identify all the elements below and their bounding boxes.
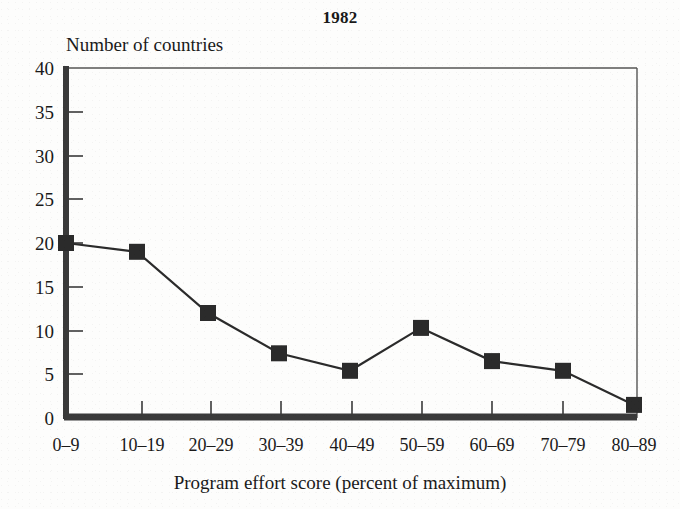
y-tick-label-20: 20 <box>10 234 54 253</box>
y-tick-label-10: 10 <box>10 322 54 341</box>
y-tick-label-5: 5 <box>10 365 54 384</box>
data-point-marker <box>626 397 642 413</box>
y-tick-label-0: 0 <box>10 409 54 428</box>
chart-figure: 1982 Number of countries <box>0 0 680 509</box>
data-point-marker <box>271 345 287 361</box>
data-point-marker <box>484 353 500 369</box>
y-tick-label-30: 30 <box>10 147 54 166</box>
data-point-marker <box>342 363 358 379</box>
data-point-marker <box>413 320 429 336</box>
data-point-marker <box>200 305 216 321</box>
data-markers <box>58 235 642 413</box>
plot-area <box>0 0 680 509</box>
x-tick-label-80-89: 80–89 <box>589 436 679 454</box>
data-line <box>66 243 634 405</box>
data-point-marker <box>555 363 571 379</box>
data-series-1982 <box>58 235 642 413</box>
y-tick-label-15: 15 <box>10 278 54 297</box>
data-point-marker <box>129 244 145 260</box>
x-axis-title: Program effort score (percent of maximum… <box>0 472 680 494</box>
y-tick-label-35: 35 <box>10 103 54 122</box>
y-tick-label-40: 40 <box>10 59 54 78</box>
data-point-marker <box>58 235 74 251</box>
y-tick-label-25: 25 <box>10 190 54 209</box>
